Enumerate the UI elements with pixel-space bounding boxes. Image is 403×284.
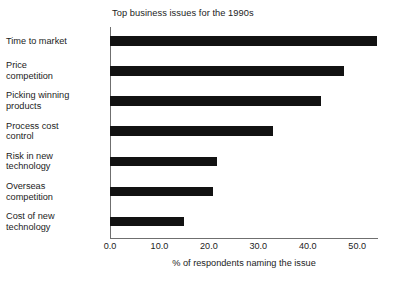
category-label: Risk in newtechnology (6, 151, 106, 172)
category-label-line: competition (6, 71, 106, 82)
category-label: Cost of newtechnology (6, 211, 106, 232)
bar-cost-of-new-technology (110, 217, 184, 227)
category-label: Picking winningproducts (6, 90, 106, 111)
category-label: Process costcontrol (6, 121, 106, 142)
x-tick-label: 30.0 (249, 241, 267, 251)
category-label-line: Price (6, 60, 106, 71)
bar-overseas-competition (110, 187, 213, 197)
bar-process-cost-control (110, 126, 273, 136)
bar-price-competition (110, 66, 344, 76)
x-tick-label: 0.0 (104, 241, 117, 251)
category-label-line: Cost of new (6, 211, 106, 222)
category-label-line: competition (6, 192, 106, 203)
category-label: Pricecompetition (6, 60, 106, 81)
x-tick-label: 20.0 (200, 241, 218, 251)
category-label: Overseascompetition (6, 181, 106, 202)
chart-title: Top business issues for the 1990s (112, 8, 254, 18)
x-axis-title: % of respondents naming the issue (110, 258, 378, 268)
x-axis-line (110, 238, 378, 239)
category-label-line: control (6, 131, 106, 142)
bar-chart-figure: Top business issues for the 1990s Time t… (0, 0, 403, 284)
bar-time-to-market (110, 36, 377, 46)
bar-row (110, 27, 378, 57)
bar-risk-in-new-technology (110, 157, 217, 167)
bar-row (110, 117, 378, 147)
category-label-line: Risk in new (6, 151, 106, 162)
bar-row (110, 87, 378, 117)
x-tick-label: 50.0 (348, 241, 366, 251)
category-label-line: Process cost (6, 121, 106, 132)
category-label-line: technology (6, 161, 106, 172)
category-label-line: products (6, 101, 106, 112)
bar-row (110, 57, 378, 87)
bar-row (110, 148, 378, 178)
category-label-line: Overseas (6, 181, 106, 192)
bar-picking-winning-products (110, 96, 321, 106)
bar-row (110, 208, 378, 238)
category-label: Time to market (6, 36, 106, 47)
category-label-line: Time to market (6, 36, 106, 47)
plot-area (110, 27, 378, 238)
x-tick-label: 10.0 (151, 241, 169, 251)
x-tick-label: 40.0 (299, 241, 317, 251)
category-label-line: Picking winning (6, 90, 106, 101)
category-label-line: technology (6, 222, 106, 233)
bar-row (110, 178, 378, 208)
